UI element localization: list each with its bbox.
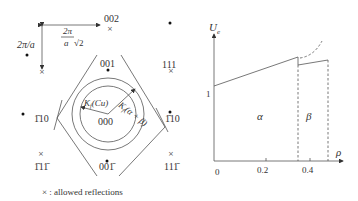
reflection-label-002: 002 xyxy=(104,13,119,24)
kf-cu-label: Kf(Cu) xyxy=(83,98,108,109)
x-tick-0: 0 xyxy=(215,167,220,177)
x-axis-label: ρ xyxy=(335,146,341,158)
reciprocal-lattice: 2π/a 2π a √2 × × × × × 002 111 001 000 1… xyxy=(17,13,180,197)
zone-boundary-left xyxy=(57,55,97,176)
alpha-energy-line xyxy=(214,57,298,86)
allowed-cross: × xyxy=(39,68,45,76)
reflection-dot-m110 xyxy=(22,113,25,116)
reflection-dot xyxy=(26,54,29,57)
allowed-cross-002: × xyxy=(107,25,113,33)
reflection-label-001: 001 xyxy=(100,58,115,69)
reflection-dot xyxy=(169,22,172,25)
y-axis-label: Ue xyxy=(209,21,220,36)
horizontal-dimension-num: 2π xyxy=(63,26,73,36)
vertical-dimension-label: 2π/a xyxy=(17,39,35,50)
energy-chart: Ue ρ 0 0.2 0.4 1 α β xyxy=(206,21,343,177)
y-tick-1: 1 xyxy=(206,89,211,99)
reflection-label-m11m1: 1̄11̄ xyxy=(34,161,50,172)
alpha-extrapolation-curve xyxy=(300,41,322,58)
reflection-label-111: 111 xyxy=(162,59,176,70)
allowed-cross-m11m1: × xyxy=(38,150,44,158)
legend-text: × : allowed reflections xyxy=(42,187,123,197)
reflection-label-000: 000 xyxy=(98,116,113,127)
x-tick-0.2: 0.2 xyxy=(257,165,268,175)
x-tick-0.4: 0.4 xyxy=(302,165,314,175)
alpha-region-label: α xyxy=(257,110,263,122)
kf-cu-arrow xyxy=(81,107,108,114)
diagram-canvas: 2π/a 2π a √2 × × × × × 002 111 001 000 1… xyxy=(0,0,358,201)
reflection-label-11m1: 111̄ xyxy=(164,161,180,172)
beta-region-label: β xyxy=(305,110,312,122)
reflection-label-m110-right: 1̄10 xyxy=(165,113,180,124)
horizontal-dimension-den: a xyxy=(64,38,69,48)
reflection-label-00m1: 001̄ xyxy=(99,161,116,172)
horizontal-dimension-sqrt: √2 xyxy=(74,38,83,48)
allowed-cross-11m1: × xyxy=(168,150,174,158)
reflection-label-m110: 1̄10 xyxy=(34,113,49,124)
beta-energy-line xyxy=(298,60,328,65)
